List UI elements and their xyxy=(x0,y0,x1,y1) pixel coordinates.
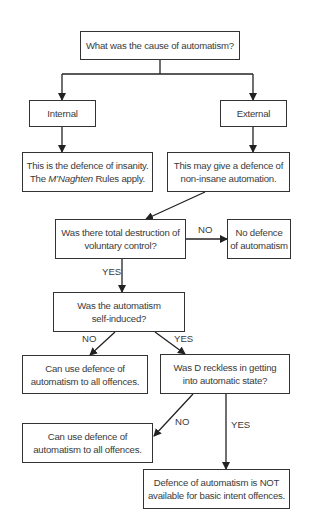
total-destruction-question-box: Was there total destruction of voluntary… xyxy=(55,219,186,259)
external-box: External xyxy=(220,100,287,127)
no-defence-box: No defence of automatism xyxy=(227,219,291,259)
can-use-defence-box-1: Can use defence of automatism to all off… xyxy=(22,355,148,394)
reckless-no-label: NO xyxy=(175,416,189,427)
can-use-1-line1: Can use defence of xyxy=(45,362,125,375)
internal-text: Internal xyxy=(47,107,77,120)
can-use-2-line1: Can use defence of xyxy=(48,430,128,443)
total-destruction-line2: voluntary control? xyxy=(84,239,156,252)
insanity-line2: The M’Naghten Rules apply. xyxy=(30,172,145,185)
insanity-line1: This is the defence of insanity. xyxy=(27,159,149,172)
self-induced-question-box: Was the automatism self-induced? xyxy=(53,292,185,332)
insanity-box: This is the defence of insanity. The M’N… xyxy=(22,152,153,192)
total-no-label: NO xyxy=(198,224,212,235)
internal-box: Internal xyxy=(29,100,96,127)
can-use-1-line2: automatism to all offences. xyxy=(31,375,140,388)
reckless-line1: Was D reckless in getting xyxy=(174,361,277,374)
no-defence-line2: of automatism xyxy=(230,239,288,252)
cause-question-box: What was the cause of automatism? xyxy=(80,31,240,60)
non-insane-box: This may give a defence of non-insane au… xyxy=(167,152,290,192)
reckless-line2: into automatic state? xyxy=(183,374,267,387)
self-no-label: NO xyxy=(82,333,96,344)
non-insane-line1: This may give a defence of xyxy=(174,159,283,172)
self-induced-line1: Was the automatism xyxy=(77,299,160,312)
mnaghten-italic: M’Naghten xyxy=(48,173,93,184)
can-use-2-line2: automatism to all offences. xyxy=(33,443,142,456)
self-yes-label: YES xyxy=(174,333,193,344)
can-use-defence-box-2: Can use defence of automatism to all off… xyxy=(22,423,153,463)
no-defence-line1: No defence xyxy=(235,226,282,239)
not-available-line1: Defence of automatism is NOT xyxy=(154,476,280,489)
reckless-question-box: Was D reckless in getting into automatic… xyxy=(160,354,290,394)
external-text: External xyxy=(237,107,271,120)
cause-question-text: What was the cause of automatism? xyxy=(86,39,234,52)
total-yes-label: YES xyxy=(102,266,121,277)
total-destruction-line1: Was there total destruction of xyxy=(61,226,179,239)
non-insane-line2: non-insane automation. xyxy=(181,172,277,185)
reckless-yes-label: YES xyxy=(231,419,250,430)
self-induced-line2: self-induced? xyxy=(92,312,146,325)
not-available-box: Defence of automatism is NOT available f… xyxy=(143,469,290,509)
not-available-line2: available for basic intent offences. xyxy=(148,489,285,502)
